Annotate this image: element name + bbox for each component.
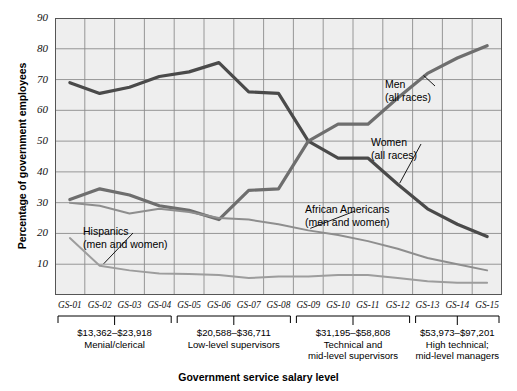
annotation-aa-line2: (men and women)	[305, 216, 390, 229]
salary-group-range: $53,973–$97,201	[387, 327, 517, 339]
y-tick-label: 30	[18, 196, 48, 208]
y-tick-label: 20	[18, 226, 48, 238]
y-tick-label: 10	[18, 257, 48, 269]
series-line	[70, 46, 487, 220]
y-tick-label: 60	[18, 103, 48, 115]
annotation-men-line2: (all races)	[385, 91, 431, 104]
annotation-women: Women (all races)	[371, 136, 417, 161]
annotation-women-line1: Women	[371, 136, 417, 149]
annotation-men: Men (all races)	[385, 78, 431, 103]
y-tick-label: 80	[18, 42, 48, 54]
salary-group-bracket	[58, 316, 171, 325]
salary-group-bracket	[296, 316, 409, 325]
salary-group-bracket	[177, 316, 290, 325]
plot-area	[55, 18, 502, 295]
y-tick-label: 90	[18, 11, 48, 23]
annotation-hispanics: Hispanics (men and women)	[83, 225, 168, 250]
annotation-african-americans: African Americans (men and women)	[305, 203, 390, 228]
x-axis-title: Government service salary level	[0, 371, 517, 383]
chart-figure: Percentage of government employees 90807…	[0, 0, 517, 391]
annotation-aa-line1: African Americans	[305, 203, 390, 216]
salary-group-desc-line1: High technical;	[387, 339, 517, 351]
annotation-hispanics-line2: (men and women)	[83, 238, 168, 251]
y-tick-label: 50	[18, 134, 48, 146]
annotation-hispanics-line1: Hispanics	[83, 225, 168, 238]
x-tick-label: GS-15	[465, 300, 509, 310]
y-tick-label: 70	[18, 73, 48, 85]
y-tick-label: 40	[18, 165, 48, 177]
salary-group-bracket	[416, 316, 499, 325]
plot-border	[56, 19, 502, 295]
annotation-men-line1: Men	[385, 78, 431, 91]
salary-group-label: $53,973–$97,201High technical;mid-level …	[387, 327, 517, 362]
salary-group-desc-line2: mid-level managers	[387, 350, 517, 362]
plot-svg	[55, 18, 502, 295]
annotation-women-line2: (all races)	[371, 149, 417, 162]
